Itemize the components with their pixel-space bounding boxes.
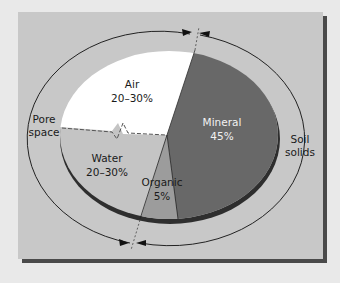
soil-composition-diagram: Air 20–30% Water 20–30% Organic 5% Miner…	[0, 0, 340, 283]
label-air-name: Air	[125, 78, 140, 90]
label-air-value: 20–30%	[111, 92, 153, 104]
label-organic-value: 5%	[154, 190, 171, 202]
label-water-value: 20–30%	[86, 166, 128, 178]
label-pore-line1: Pore	[33, 113, 56, 125]
label-water-name: Water	[91, 152, 123, 164]
label-pore-line2: space	[29, 126, 60, 138]
label-mineral-name: Mineral	[203, 116, 242, 128]
label-mineral-value: 45%	[210, 130, 233, 142]
label-solids-line1: Soil	[291, 133, 310, 145]
label-organic-name: Organic	[142, 176, 183, 188]
label-solids-line2: solids	[285, 146, 315, 158]
